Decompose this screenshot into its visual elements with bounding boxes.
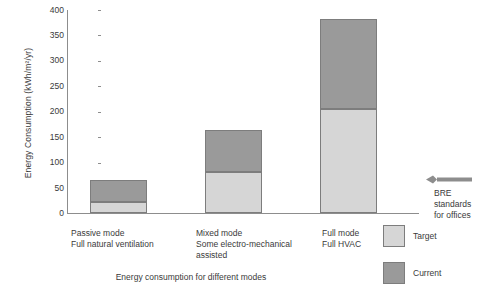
y-tick-mark xyxy=(98,86,101,87)
legend-swatch-target xyxy=(383,225,405,247)
y-tick-mark xyxy=(98,163,101,164)
y-tick-mark xyxy=(98,112,101,113)
y-tick-mark xyxy=(98,137,101,138)
x-axis-line xyxy=(67,213,419,214)
bar-segment-current xyxy=(205,130,262,172)
y-tick-label: 400 xyxy=(38,6,64,15)
bre-standards-arrow-icon xyxy=(424,172,474,184)
y-axis-line xyxy=(67,10,68,214)
legend-label-current: Current xyxy=(413,268,441,278)
x-category-label-mixed: Mixed mode Some electro-mechanical assis… xyxy=(196,228,304,261)
legend-label-target: Target xyxy=(413,231,437,241)
legend-swatch-current xyxy=(383,262,405,284)
y-tick-mark xyxy=(98,61,101,62)
bar-full-mode[interactable] xyxy=(320,19,377,213)
y-tick-label: 100 xyxy=(38,158,64,167)
y-axis-title: Energy Consumption (kWh/m²/yr) xyxy=(23,13,33,213)
y-tick-mark xyxy=(98,10,101,11)
y-tick-label: 0 xyxy=(38,209,64,218)
bar-segment-target xyxy=(90,202,147,213)
y-tick-label: 350 xyxy=(38,31,64,40)
bar-segment-current xyxy=(320,19,377,109)
y-tick-label: 250 xyxy=(38,82,64,91)
bar-segment-target xyxy=(205,172,262,213)
bre-standards-label: BRE standards for offices xyxy=(434,188,482,221)
x-category-label-passive: Passive mode Full natural ventilation xyxy=(71,228,191,250)
bar-segment-target xyxy=(320,109,377,213)
y-tick-label: 150 xyxy=(38,133,64,142)
bar-passive-mode[interactable] xyxy=(90,180,147,213)
y-axis-ticks: 400 350 300 250 200 150 100 50 0 xyxy=(34,0,64,296)
y-tick-label: 200 xyxy=(38,107,64,116)
y-tick-mark xyxy=(98,35,101,36)
chart-figure: Energy Consumption (kWh/m²/yr) 400 350 3… xyxy=(0,0,482,296)
y-tick-label: 50 xyxy=(38,184,64,193)
x-category-label-full: Full mode Full HVAC xyxy=(322,228,382,250)
bar-mixed-mode[interactable] xyxy=(205,130,262,213)
y-tick-label: 300 xyxy=(38,56,64,65)
bar-segment-current xyxy=(90,180,147,202)
x-axis-title: Energy consumption for different modes xyxy=(60,272,322,282)
